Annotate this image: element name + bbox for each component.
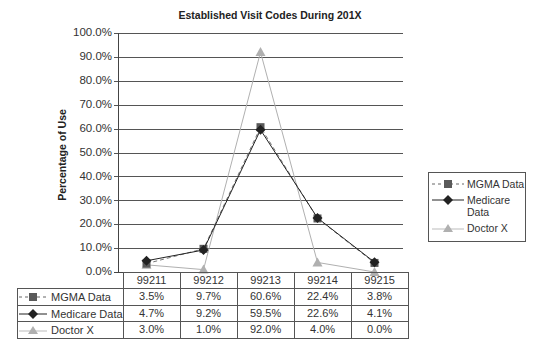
diamond-marker-icon [18,308,48,320]
square-marker-icon [431,178,465,190]
table-cell: 92.0% [237,322,294,339]
table-cell: 9.2% [180,305,237,322]
table-cell: 22.6% [294,305,351,322]
table-row-doctor-x: Doctor X 3.0% 1.0% 92.0% 4.0% 0.0% [18,322,409,339]
category-header: 99212 [180,273,237,289]
table-cell: 59.5% [237,305,294,322]
table-cell: 4.0% [294,322,351,339]
row-label: MGMA Data [18,289,124,306]
table-cell: 3.0% [123,322,180,339]
table-cell: 60.6% [237,289,294,306]
category-header: 99211 [123,273,180,289]
table-cell: 4.7% [123,305,180,322]
table-row-medicare: Medicare Data 4.7% 9.2% 59.5% 22.6% 4.1% [18,305,409,322]
category-header: 99215 [351,273,408,289]
table-cell: 4.1% [351,305,408,322]
legend-label: Doctor X [467,222,525,234]
table-header-row: 99211 99212 99213 99214 99215 [18,273,409,289]
legend-label: Medicare Data [467,194,525,218]
table-cell: 22.4% [294,289,351,306]
square-marker-icon [18,291,48,303]
row-label: Medicare Data [18,305,124,322]
table-cell: 1.0% [180,322,237,339]
table-cell: 3.5% [123,289,180,306]
table-cell: 9.7% [180,289,237,306]
table-row-mgma: MGMA Data 3.5% 9.7% 60.6% 22.4% 3.8% [18,289,409,306]
table-cell: 3.8% [351,289,408,306]
diamond-marker-icon [431,194,465,206]
category-header: 99214 [294,273,351,289]
gridlines [114,34,403,273]
table-cell: 0.0% [351,322,408,339]
row-label: Doctor X [18,322,124,339]
legend-label: MGMA Data [467,178,525,190]
triangle-marker-icon [18,324,48,336]
triangle-marker-icon [431,222,465,234]
data-table: 99211 99212 99213 99214 99215 MGMA Data … [17,272,409,339]
legend: MGMA Data Medicare Data Doctor X [428,172,526,242]
category-header: 99213 [237,273,294,289]
